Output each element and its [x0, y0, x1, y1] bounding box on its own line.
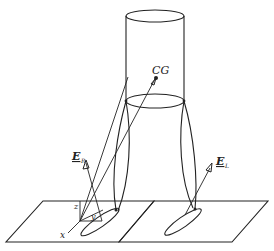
left-leg: [181, 101, 196, 209]
axis-y-label: y: [90, 212, 96, 221]
axis-x-label: x: [60, 230, 65, 240]
right-leg: [114, 101, 129, 211]
cg-label: CG: [152, 64, 169, 77]
e-l-vector: [185, 168, 210, 215]
e-l-subscript: L: [224, 162, 229, 169]
hip-ellipse: [126, 94, 184, 108]
ground-plate-left: [119, 201, 268, 242]
e-r-label: E: [71, 150, 81, 163]
left-foot: [162, 205, 204, 238]
x-axis: [68, 221, 80, 233]
biped-diagram: CG E R E L z y x: [0, 0, 274, 251]
cylinder-top: [126, 10, 184, 22]
body-cylinder: [125, 10, 186, 108]
e-r-subscript: R: [80, 157, 86, 164]
axis-z-label: z: [73, 202, 79, 211]
e-l-label: E: [215, 155, 225, 168]
